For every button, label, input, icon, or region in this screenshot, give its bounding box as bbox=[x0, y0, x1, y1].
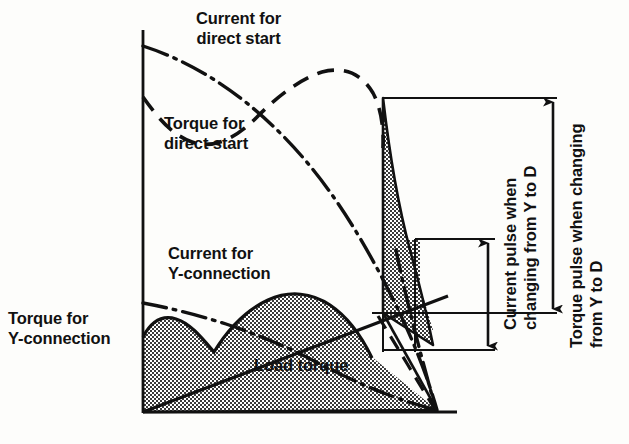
label-torque-y-connection: Torque for Y-connection bbox=[8, 308, 110, 348]
label-current-y-connection: Current for Y-connection bbox=[168, 243, 270, 283]
label-load-torque: Load torque bbox=[254, 355, 348, 375]
label-current-pulse: Current pulse when changing from Y to D bbox=[500, 166, 540, 330]
label-torque-direct-start: Torque for direct start bbox=[164, 113, 248, 153]
label-current-direct-start: Current for direct start bbox=[196, 8, 281, 48]
figure-root: Current for direct start Torque for dire… bbox=[0, 0, 629, 444]
label-torque-pulse: Torque pulse when changing from Y to D bbox=[566, 124, 606, 348]
